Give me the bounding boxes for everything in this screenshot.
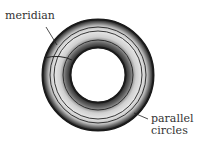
parallel-label-line2: circles <box>151 125 188 137</box>
meridian-leader <box>46 27 57 45</box>
meridian-label: meridian <box>5 10 55 22</box>
